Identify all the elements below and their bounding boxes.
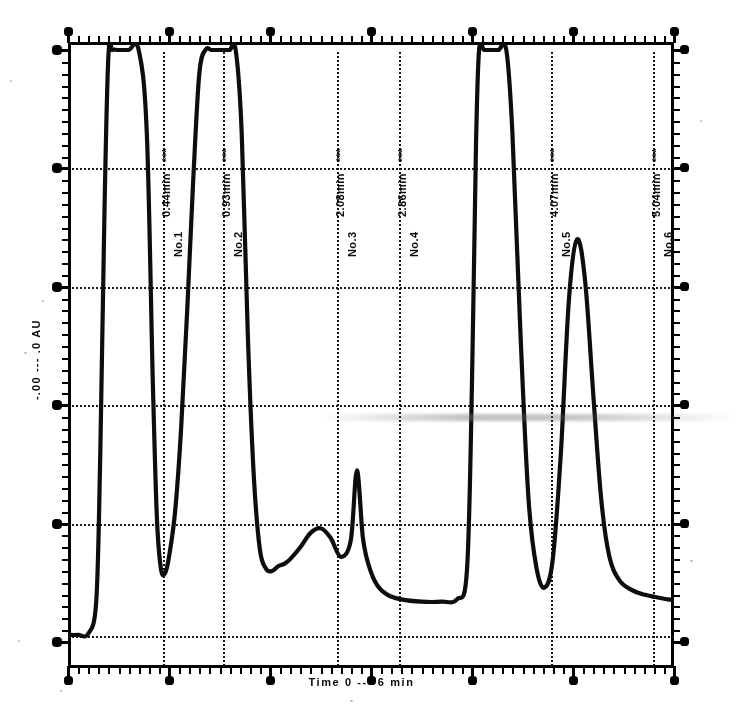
tick-right-minor [673, 251, 680, 253]
tick-bottom-minor [543, 667, 545, 674]
tick-right-minor [673, 62, 680, 64]
tick-blob-top [367, 27, 376, 36]
tick-right-minor [673, 133, 680, 135]
peak-label-extra-4: *** [397, 148, 408, 162]
tick-bottom-minor [593, 667, 595, 674]
tick-bottom-minor [624, 667, 626, 674]
tick-right-minor [673, 382, 680, 384]
tick-blob-left [52, 519, 62, 529]
x-axis-label: Time 0 --- 6 min [0, 676, 723, 688]
peak-label-no-4: No.4 [409, 232, 420, 257]
tick-blob-right [680, 45, 689, 54]
scan-smudge [318, 414, 738, 421]
tick-right-minor [673, 180, 680, 182]
tick-bottom-minor [78, 667, 80, 674]
tick-bottom-minor [240, 667, 242, 674]
trace-curve [68, 42, 674, 668]
tick-bottom-minor [220, 667, 222, 674]
tick-right-minor [673, 322, 680, 324]
tick-right-minor [673, 358, 680, 360]
tick-right-minor [673, 535, 680, 537]
scan-speck [700, 120, 702, 122]
tick-right-minor [673, 346, 680, 348]
tick-bottom-minor [108, 667, 110, 674]
tick-right-minor [673, 109, 680, 111]
tick-bottom-minor [533, 667, 535, 674]
tick-bottom-minor [381, 667, 383, 674]
tick-right-minor [673, 441, 680, 443]
tick-blob-left [52, 45, 62, 55]
tick-bottom-minor [310, 667, 312, 674]
tick-bottom-minor [492, 667, 494, 674]
tick-bottom-minor [391, 667, 393, 674]
tick-right-minor [673, 595, 680, 597]
tick-right-minor [673, 216, 680, 218]
peak-label-no-5: No.5 [561, 232, 572, 257]
scan-speck [350, 700, 353, 702]
peak-label-extra-5: *** [549, 148, 560, 162]
peak-label-extra-2: *** [221, 148, 232, 162]
tick-right-minor [673, 74, 680, 76]
peak-label-time-6: 5.04min [651, 173, 662, 217]
scan-speck [18, 640, 20, 642]
tick-bottom-minor [644, 667, 646, 674]
tick-bottom-minor [209, 667, 211, 674]
peak-label-time-1: 0.44min [161, 173, 172, 217]
tick-blob-top [165, 27, 174, 36]
tick-bottom-minor [654, 667, 656, 674]
tick-right-minor [673, 145, 680, 147]
tick-right-minor [673, 239, 680, 241]
tick-blob-right [680, 400, 689, 409]
tick-blob-bottom [165, 676, 174, 685]
tick-bottom-minor [361, 667, 363, 674]
tick-right-minor [673, 275, 680, 277]
peak-label-extra-1: *** [161, 148, 172, 162]
tick-blob-bottom [64, 676, 73, 685]
tick-blob-top [266, 27, 275, 36]
tick-right-minor [673, 310, 680, 312]
scan-speck [10, 80, 12, 82]
scan-speck [24, 352, 27, 354]
tick-bottom-minor [139, 667, 141, 674]
tick-bottom-minor [432, 667, 434, 674]
peak-label-extra-3: *** [335, 148, 346, 162]
tick-bottom-minor [88, 667, 90, 674]
tick-bottom-minor [321, 667, 323, 674]
tick-right-minor [673, 453, 680, 455]
tick-blob-top [670, 27, 679, 36]
tick-right-minor [673, 393, 680, 395]
tick-blob-top [569, 27, 578, 36]
peak-label-no-1: No.1 [173, 232, 184, 257]
tick-bottom-minor [462, 667, 464, 674]
tick-blob-bottom [569, 676, 578, 685]
tick-right-minor [673, 500, 680, 502]
tick-bottom-minor [664, 667, 666, 674]
tick-right-minor [673, 157, 680, 159]
scan-speck [690, 560, 693, 562]
tick-bottom-minor [129, 667, 131, 674]
tick-bottom-minor [189, 667, 191, 674]
tick-right-minor [673, 559, 680, 561]
tick-blob-left [52, 282, 62, 292]
tick-bottom-minor [300, 667, 302, 674]
tick-right-minor [673, 547, 680, 549]
tick-right-minor [673, 464, 680, 466]
tick-blob-bottom [468, 676, 477, 685]
scan-speck [42, 300, 44, 302]
tick-right-minor [673, 429, 680, 431]
tick-right-minor [673, 228, 680, 230]
tick-right-minor [673, 488, 680, 490]
peak-label-no-3: No.3 [347, 232, 358, 257]
tick-bottom-minor [634, 667, 636, 674]
tick-bottom-minor [119, 667, 121, 674]
tick-bottom-minor [351, 667, 353, 674]
tick-bottom-minor [199, 667, 201, 674]
tick-bottom-minor [583, 667, 585, 674]
tick-blob-left [52, 637, 62, 647]
peak-label-time-3: 2.08min [335, 173, 346, 217]
tick-bottom-minor [341, 667, 343, 674]
tick-bottom-minor [159, 667, 161, 674]
tick-right-minor [673, 606, 680, 608]
tick-bottom-minor [260, 667, 262, 674]
tick-right-minor [673, 571, 680, 573]
